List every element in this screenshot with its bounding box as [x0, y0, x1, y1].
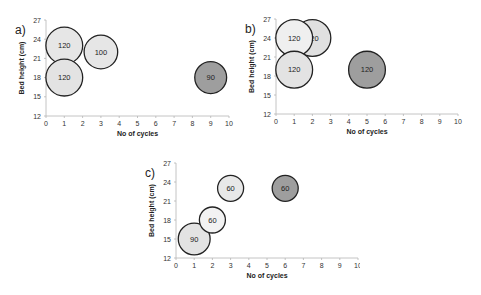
- chart-panel-a: 012345678910121518212427No of cyclesBed …: [0, 0, 240, 145]
- x-tick-label: 4: [247, 262, 251, 269]
- bubble-label: 90: [207, 73, 215, 82]
- x-tick-label: 2: [81, 120, 85, 127]
- x-tick-label: 10: [454, 118, 462, 125]
- x-tick-label: 8: [420, 118, 424, 125]
- x-tick-label: 5: [136, 120, 140, 127]
- x-tick-label: 0: [44, 120, 48, 127]
- y-tick-label: 12: [263, 111, 271, 118]
- x-tick-label: 5: [265, 262, 269, 269]
- bubble-label: 120: [361, 65, 374, 74]
- bubble-chart-c: 012345678910121518212427No of cyclesBed …: [130, 150, 360, 295]
- x-tick-label: 6: [283, 262, 287, 269]
- y-tick-label: 27: [263, 16, 271, 23]
- bubble: 60: [218, 175, 244, 201]
- x-tick-label: 1: [62, 120, 66, 127]
- bubble: 120: [46, 27, 83, 64]
- chart-panel-c: 012345678910121518212427No of cyclesBed …: [130, 150, 360, 295]
- x-tick-label: 6: [154, 120, 158, 127]
- x-tick-label: 4: [347, 118, 351, 125]
- x-tick-label: 10: [354, 262, 360, 269]
- y-tick-label: 24: [163, 179, 171, 186]
- bubble-label: 60: [281, 184, 289, 193]
- bubble: 120: [349, 51, 386, 88]
- x-tick-label: 9: [438, 118, 442, 125]
- y-axis-title: Bed height (cm): [148, 184, 156, 237]
- x-tick-label: 9: [338, 262, 342, 269]
- y-tick-label: 27: [163, 160, 171, 167]
- bubble: 60: [199, 207, 225, 233]
- bubble-label: 120: [288, 34, 301, 43]
- y-tick-label: 12: [163, 255, 171, 262]
- y-axis-title: Bed height (cm): [248, 40, 256, 93]
- x-tick-label: 2: [310, 118, 314, 125]
- y-tick-label: 18: [263, 73, 271, 80]
- x-axis-title: No of cycles: [346, 128, 387, 136]
- x-tick-label: 0: [174, 262, 178, 269]
- x-tick-label: 3: [329, 118, 333, 125]
- x-tick-label: 8: [320, 262, 324, 269]
- y-tick-label: 18: [163, 217, 171, 224]
- bubble-chart-a: 012345678910121518212427No of cyclesBed …: [0, 0, 240, 145]
- bubble: 120: [46, 59, 83, 96]
- x-tick-label: 8: [190, 120, 194, 127]
- x-axis-title: No of cycles: [246, 272, 287, 280]
- x-tick-label: 1: [292, 118, 296, 125]
- x-tick-label: 2: [210, 262, 214, 269]
- x-tick-label: 1: [192, 262, 196, 269]
- panel-label: b): [245, 22, 256, 36]
- x-tick-label: 9: [209, 120, 213, 127]
- y-tick-label: 21: [163, 198, 171, 205]
- x-tick-label: 0: [274, 118, 278, 125]
- bubble-label: 90: [190, 235, 198, 244]
- y-tick-label: 21: [263, 54, 271, 61]
- bubble: 120: [276, 51, 313, 88]
- x-tick-label: 7: [172, 120, 176, 127]
- bubble-label: 60: [208, 216, 216, 225]
- bubble-label: 120: [58, 73, 71, 82]
- y-tick-label: 15: [263, 92, 271, 99]
- y-tick-label: 21: [33, 55, 41, 62]
- y-tick-label: 24: [33, 36, 41, 43]
- x-tick-label: 4: [117, 120, 121, 127]
- bubble: 100: [84, 35, 118, 69]
- x-tick-label: 5: [365, 118, 369, 125]
- bubble: 90: [195, 62, 227, 94]
- y-tick-label: 18: [33, 74, 41, 81]
- x-tick-label: 3: [229, 262, 233, 269]
- y-tick-label: 24: [263, 35, 271, 42]
- bubble-label: 100: [95, 48, 108, 57]
- y-tick-label: 15: [163, 236, 171, 243]
- x-tick-label: 7: [301, 262, 305, 269]
- x-tick-label: 7: [401, 118, 405, 125]
- x-tick-label: 3: [99, 120, 103, 127]
- panel-label: c): [145, 166, 155, 180]
- x-tick-label: 10: [225, 120, 233, 127]
- bubble-label: 120: [288, 65, 301, 74]
- y-tick-label: 27: [33, 17, 41, 24]
- bubble: 60: [272, 175, 298, 201]
- x-axis-title: No of cycles: [117, 130, 158, 138]
- bubble-label: 60: [226, 184, 234, 193]
- bubble-label: 120: [58, 41, 71, 50]
- y-tick-label: 12: [33, 113, 41, 120]
- chart-panel-b: 012345678910121518212427No of cyclesBed …: [240, 0, 481, 145]
- bubble-chart-b: 012345678910121518212427No of cyclesBed …: [240, 0, 481, 145]
- panel-label: a): [15, 23, 26, 37]
- y-axis-title: Bed height (cm): [18, 42, 26, 95]
- x-tick-label: 6: [383, 118, 387, 125]
- y-tick-label: 15: [33, 93, 41, 100]
